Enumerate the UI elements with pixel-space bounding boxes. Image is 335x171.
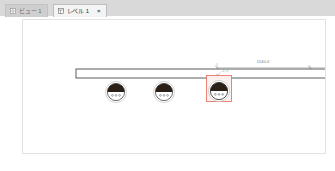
view-window-icon — [10, 8, 16, 14]
duplex-receptacle-3[interactable] — [209, 81, 230, 102]
wall-element[interactable] — [76, 69, 326, 78]
receptacle-slot-center — [218, 94, 220, 96]
drawing-canvas[interactable]: 1140.0 コン — [22, 19, 326, 154]
dimension-value: 1140.0 — [257, 59, 270, 64]
element-tag-label: コン — [221, 69, 229, 73]
receptacle-slot-right — [222, 94, 224, 96]
tab-view-1[interactable]: ビュー 1 — [5, 4, 48, 17]
floor-plan-icon — [58, 8, 64, 14]
duplex-receptacle-1[interactable] — [106, 82, 127, 103]
receptacle-slot-left — [112, 95, 114, 97]
receptacle-slot-right — [119, 95, 121, 97]
receptacle-slot-center — [115, 95, 117, 97]
receptacle-slot-left — [160, 95, 162, 97]
floor-plan-drawing: 1140.0 コン — [23, 20, 326, 154]
duplex-receptacle-2[interactable] — [154, 82, 175, 103]
receptacle-slot-right — [167, 95, 169, 97]
tab-view-1-label: ビュー 1 — [19, 8, 42, 14]
wall-body[interactable] — [76, 69, 326, 78]
tab-level-1-label: レベル 1 — [67, 8, 90, 14]
receptacle-slot-center — [163, 95, 165, 97]
close-icon[interactable]: × — [97, 8, 101, 14]
document-tab-bar: ビュー 1 レベル 1 × — [0, 0, 335, 16]
tab-level-1[interactable]: レベル 1 × — [53, 4, 107, 17]
receptacle-slot-left — [215, 94, 217, 96]
